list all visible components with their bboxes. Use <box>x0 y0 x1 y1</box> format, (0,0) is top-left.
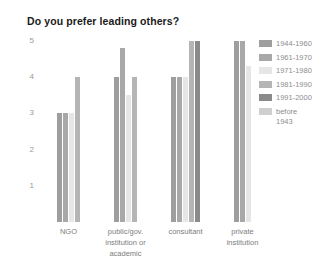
legend-label: 1991-2000 <box>276 93 312 103</box>
bar-group: private institution <box>234 41 251 222</box>
chart-legend: 1944-19601961-19701971-19801981-19901991… <box>259 39 312 127</box>
legend-label: 1981-1990 <box>276 80 312 90</box>
legend-label: before 1943 <box>276 107 297 127</box>
y-axis-tick: 1 <box>30 182 34 190</box>
legend-label: 1961-1970 <box>276 53 312 63</box>
legend-swatch <box>259 81 272 88</box>
legend-item[interactable]: 1944-1960 <box>259 39 312 49</box>
legend-swatch <box>259 108 272 115</box>
bar <box>114 77 119 222</box>
y-axis-tick: 4 <box>30 73 34 81</box>
bar <box>57 113 62 222</box>
legend-item[interactable]: 1971-1980 <box>259 66 312 76</box>
legend-swatch <box>259 54 272 61</box>
bar <box>75 77 80 222</box>
legend-swatch <box>259 67 272 74</box>
bar <box>69 113 74 222</box>
bar <box>240 41 245 222</box>
y-axis-tick: 5 <box>30 37 34 45</box>
chart-title: Do you prefer leading others? <box>27 15 179 27</box>
x-axis-label: private institution <box>205 227 281 249</box>
bar-chart: Do you prefer leading others? 54321 NGOp… <box>0 0 335 267</box>
bar-groups: NGOpublic/gov. institution or academicco… <box>40 41 268 222</box>
bar <box>246 66 251 222</box>
y-axis-tick: 2 <box>30 146 34 154</box>
bar <box>195 41 200 222</box>
bar <box>63 113 68 222</box>
plot-area: 54321 NGOpublic/gov. institution or acad… <box>40 41 268 222</box>
legend-swatch <box>259 94 272 101</box>
bar-group: NGO <box>57 41 80 222</box>
bar-group: consultant <box>171 41 200 222</box>
bar <box>171 77 176 222</box>
bar <box>120 48 125 222</box>
legend-swatch <box>259 40 272 47</box>
legend-item[interactable]: 1991-2000 <box>259 93 312 103</box>
bar <box>177 77 182 222</box>
y-axis-tick: 3 <box>30 109 34 117</box>
legend-label: 1971-1980 <box>276 66 312 76</box>
bar <box>189 41 194 222</box>
legend-label: 1944-1960 <box>276 39 312 49</box>
legend-item[interactable]: 1981-1990 <box>259 80 312 90</box>
bar <box>183 77 188 222</box>
bar <box>234 41 239 222</box>
legend-item[interactable]: before 1943 <box>259 107 312 127</box>
legend-item[interactable]: 1961-1970 <box>259 53 312 63</box>
bar <box>126 95 131 222</box>
bar <box>132 77 137 222</box>
bar-group: public/gov. institution or academic <box>114 41 137 222</box>
